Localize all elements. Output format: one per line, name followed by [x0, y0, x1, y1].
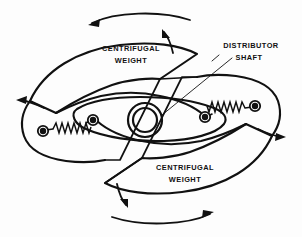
rotation-arrow-bottom: [112, 214, 210, 223]
label-lower-weight-line2: WEIGHT: [169, 175, 201, 184]
label-distributor-shaft-line2: SHAFT: [236, 53, 263, 62]
rotation-arrow-right-head: [275, 133, 286, 141]
diagram-canvas: CENTRIFUGAL WEIGHT CENTRIFUGAL WEIGHT DI…: [0, 0, 302, 237]
label-lower-weight-line1: CENTRIFUGAL: [156, 163, 214, 172]
shaft-leader-line: [162, 58, 232, 115]
right-outer-pivot-center: [252, 103, 258, 109]
hub-inner-ring: [133, 108, 157, 132]
left-spring-assembly: [38, 115, 98, 136]
right-spring-assembly: [200, 101, 260, 122]
left-outer-pivot-center: [40, 128, 46, 134]
rotation-arrow-top-inner-head: [162, 29, 170, 38]
label-upper-weight-line2: WEIGHT: [115, 56, 147, 65]
rotation-arrow-top: [92, 14, 190, 23]
lower-weight-pointer: [105, 158, 142, 183]
rotation-arrow-top-head: [88, 19, 100, 27]
upper-centrifugal-weight: [30, 43, 205, 116]
left-inner-pivot-center: [90, 117, 96, 123]
shaft-leader-group: [162, 55, 232, 115]
label-upper-weight-line1: CENTRIFUGAL: [102, 44, 160, 53]
distributor-advance-diagram: CENTRIFUGAL WEIGHT CENTRIFUGAL WEIGHT DI…: [0, 0, 302, 237]
rotation-arrow-left-head: [16, 96, 27, 104]
shaft-leader-line-secondary: [212, 55, 219, 61]
distributor-base-plate: [22, 75, 280, 162]
label-distributor-shaft-line1: DISTRIBUTOR: [223, 41, 279, 50]
rotation-arrow-bottom-inner-head: [120, 199, 128, 208]
right-inner-pivot-center: [202, 114, 208, 120]
rotation-arrow-bottom-head: [202, 210, 214, 218]
lower-pointer-tip: [142, 77, 197, 158]
